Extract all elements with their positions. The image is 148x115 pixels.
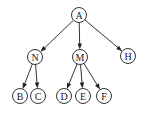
- edge-M-F: [84, 63, 100, 89]
- node-label: D: [60, 91, 67, 102]
- node-label: A: [75, 10, 83, 21]
- edge-line: [24, 64, 33, 86]
- node-label: H: [124, 51, 131, 62]
- node-F: F: [97, 89, 112, 104]
- arrowhead-icon: [77, 43, 81, 49]
- edge-line: [84, 63, 99, 87]
- node-label: F: [101, 91, 107, 102]
- node-label: N: [31, 52, 38, 63]
- tree-diagram: ANMHBCDEF: [0, 0, 148, 115]
- edge-N-C: [35, 64, 39, 88]
- node-label: B: [17, 91, 24, 102]
- edge-N-B: [23, 64, 33, 89]
- arrowhead-icon: [23, 83, 27, 89]
- node-A: A: [72, 8, 87, 23]
- edge-A-M: [77, 22, 81, 49]
- node-B: B: [13, 89, 28, 104]
- edge-line: [85, 20, 120, 49]
- node-E: E: [76, 89, 91, 104]
- edge-M-D: [67, 64, 77, 89]
- node-M: M: [73, 50, 88, 65]
- node-label: C: [35, 91, 42, 102]
- edge-line: [43, 20, 74, 50]
- node-label: M: [76, 52, 85, 63]
- nodes: ANMHBCDEF: [13, 8, 136, 104]
- edge-line: [79, 22, 80, 46]
- arrowhead-icon: [67, 83, 71, 89]
- edge-M-E: [80, 64, 84, 88]
- arrowhead-icon: [35, 82, 39, 88]
- edge-line: [36, 64, 38, 85]
- node-label: E: [80, 91, 86, 102]
- node-C: C: [31, 89, 46, 104]
- edge-A-H: [85, 20, 122, 51]
- arrowhead-icon: [80, 82, 84, 88]
- node-H: H: [121, 49, 136, 64]
- edge-line: [68, 64, 77, 86]
- node-N: N: [28, 50, 43, 65]
- edge-A-N: [40, 20, 73, 52]
- arrowhead-icon: [95, 83, 100, 89]
- node-D: D: [57, 89, 72, 104]
- edge-line: [81, 64, 83, 85]
